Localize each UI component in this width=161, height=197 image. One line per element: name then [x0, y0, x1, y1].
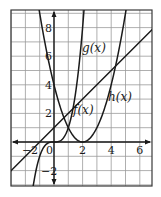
label-h: h(x) [108, 90, 132, 104]
x-tick-label: 0 [46, 144, 53, 157]
x-tick-label: 6 [136, 144, 143, 157]
label-f: f(x) [72, 103, 94, 117]
function-graph: −202468642−2 g(x) h(x) f(x) [0, 0, 161, 197]
y-tick-label: 4 [45, 79, 52, 92]
curves [10, 5, 154, 191]
curve-f [33, 6, 85, 191]
y-axis-arrow-up-icon [52, 11, 57, 17]
y-axis-arrow-down-icon [52, 179, 57, 185]
y-tick-label: 8 [45, 22, 52, 35]
y-tick-label: 2 [45, 107, 52, 120]
x-axis-arrow-left-icon [12, 140, 18, 145]
x-axis-arrow-right-icon [145, 140, 151, 145]
y-tick-label: −2 [41, 165, 57, 178]
x-tick-label: 4 [108, 144, 115, 157]
x-tick-label: 2 [79, 144, 86, 157]
label-g: g(x) [82, 41, 106, 55]
